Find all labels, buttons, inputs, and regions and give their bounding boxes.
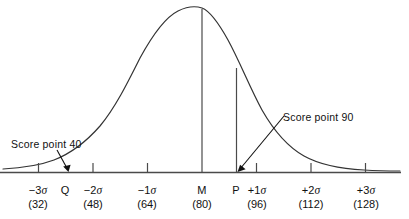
normal-distribution-figure: Score point 40 Score point 90 Q P −3σ (3… — [0, 0, 409, 219]
tick-score-plus1: (96) — [247, 197, 267, 211]
annotation-score-point-90: Score point 90 — [283, 111, 354, 123]
sigma-glyph: σ — [96, 184, 102, 196]
tick-sigma-minus3: −3σ — [28, 184, 48, 197]
sigma-glyph: σ — [150, 184, 156, 196]
tick-sigma-minus2: −2σ — [83, 184, 103, 197]
tick-label-plus2sigma: +2σ (112) — [299, 184, 324, 211]
tick-label-mean: M (80) — [192, 184, 212, 211]
tick-sigma-plus3: +3σ — [353, 184, 379, 197]
tick-score-mean: (80) — [192, 197, 212, 211]
tick-label-minus3sigma: −3σ (32) — [28, 184, 48, 211]
tick-sigma-mean: M — [192, 184, 212, 197]
tick-sigma-plus1: +1σ — [247, 184, 267, 197]
tick-label-minus2sigma: −2σ (48) — [83, 184, 103, 211]
tick-sigma-minus1: −1σ — [137, 184, 157, 197]
sigma-glyph: σ — [260, 184, 266, 196]
axis-point-label-q: Q — [61, 184, 70, 196]
sigma-glyph: σ — [314, 184, 320, 196]
annotation-score-point-40: Score point 40 — [11, 138, 82, 150]
sigma-glyph: σ — [369, 184, 375, 196]
tick-label-plus1sigma: +1σ (96) — [247, 184, 267, 211]
annotation-arrow-right — [238, 116, 285, 172]
sigma-glyph: σ — [41, 184, 47, 196]
tick-score-minus1: (64) — [137, 197, 157, 211]
tick-score-plus2: (112) — [299, 197, 324, 211]
tick-score-minus3: (32) — [28, 197, 48, 211]
tick-score-plus3: (128) — [353, 197, 379, 211]
axis-point-label-p: P — [232, 184, 239, 196]
tick-score-minus2: (48) — [83, 197, 103, 211]
tick-sigma-plus2: +2σ — [299, 184, 324, 197]
tick-label-minus1sigma: −1σ (64) — [137, 184, 157, 211]
tick-label-plus3sigma: +3σ (128) — [353, 184, 379, 211]
